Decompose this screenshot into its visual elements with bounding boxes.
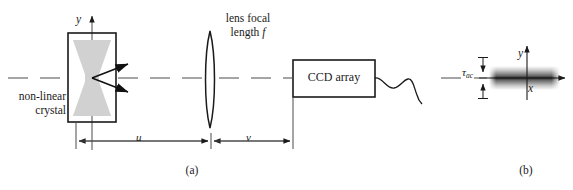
y-axis-label-panel-a: y (76, 13, 81, 27)
caption-panel-b: (b) (506, 164, 546, 178)
lens-label-line2: length (231, 26, 260, 38)
y-axis-label-panel-b: y (518, 47, 523, 61)
lens-element (206, 31, 215, 128)
crystal-label-line1: non-linear (19, 90, 66, 102)
crystal-label-line2: crystal (35, 104, 66, 116)
signal-trace-squiggle (375, 78, 422, 104)
object-distance-label: u (136, 131, 142, 144)
tau-ac-label: τac (462, 66, 473, 81)
ccd-array-label: CCD array (293, 70, 375, 84)
lens-focal-length-symbol: f (262, 26, 265, 38)
caption-panel-a: (a) (172, 164, 212, 178)
lens-label-line1: lens focal (226, 12, 270, 24)
x-axis-label-panel-b: x (528, 82, 533, 96)
lens-label: lens focal length f (196, 12, 300, 39)
tau-ac-dimension-arrow (474, 58, 488, 99)
image-distance-label: v (246, 131, 251, 144)
crystal-label: non-linear crystal (0, 90, 66, 117)
tau-subscript: ac (466, 71, 473, 80)
optical-setup-figure: non-linear crystal lens focal length f C… (0, 0, 573, 190)
